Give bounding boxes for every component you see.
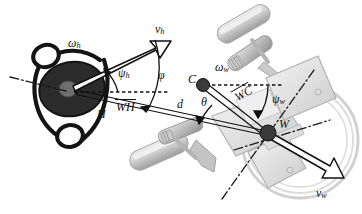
human-heading-angle-label: ψh bbox=[118, 66, 130, 81]
wheelchair-angular-velocity-label: ωw bbox=[215, 60, 229, 75]
wh-vector-label: WH bbox=[116, 100, 135, 115]
human-angular-velocity-label: ωh bbox=[68, 36, 81, 51]
wheelchair-linear-velocity-label: vw bbox=[316, 186, 327, 201]
wheel-axis-point-label: W bbox=[279, 117, 289, 132]
wheelchair-render-lower bbox=[127, 116, 216, 174]
theta-angle-label: θ bbox=[201, 95, 207, 110]
point-C bbox=[197, 79, 210, 92]
wheelchair-seat-plates bbox=[212, 56, 336, 188]
human-point-label: H bbox=[97, 107, 106, 122]
distance-label: d bbox=[177, 97, 183, 112]
human-linear-velocity-label: vh bbox=[155, 22, 164, 37]
phi-angle-label: φ bbox=[158, 68, 165, 83]
chair-center-point-label: C bbox=[188, 72, 196, 87]
point-W bbox=[260, 125, 276, 141]
figure-canvas: ωh vh ψh φ H WH d θ C ωw WC ψw W vw bbox=[0, 0, 362, 214]
wheelchair-heading-angle-label: ψw bbox=[272, 92, 285, 107]
